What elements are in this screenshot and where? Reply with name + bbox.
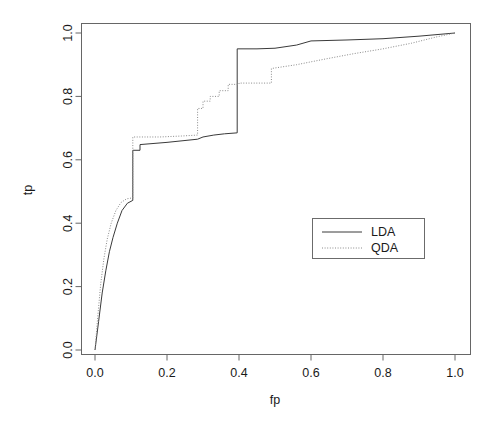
y-tick-label: 0.0 [61,341,75,358]
x-axis-title: fp [270,393,280,407]
roc-chart: 0.00.20.40.60.81.0 0.00.20.40.60.81.0 fp… [0,0,491,426]
legend-label-qda: QDA [371,241,399,255]
y-tick-label: 0.6 [61,151,75,168]
x-tick-label: 0.2 [158,366,175,380]
y-axis-title: tp [21,185,35,195]
x-tick-label: 0.6 [302,366,319,380]
x-tick-label: 0.4 [230,366,247,380]
chart-background [0,0,491,426]
roc-plot-container: 0.00.20.40.60.81.0 0.00.20.40.60.81.0 fp… [0,0,491,426]
x-tick-label: 1.0 [446,366,463,380]
y-tick-label: 1.0 [61,24,75,41]
y-tick-label: 0.2 [61,278,75,295]
legend-box [313,219,425,259]
y-tick-label: 0.8 [61,88,75,105]
x-tick-label: 0.0 [86,366,103,380]
legend-label-lda: LDA [371,225,396,239]
y-tick-label: 0.4 [61,214,75,231]
x-tick-label: 0.8 [374,366,391,380]
legend: LDA QDA [313,219,425,259]
